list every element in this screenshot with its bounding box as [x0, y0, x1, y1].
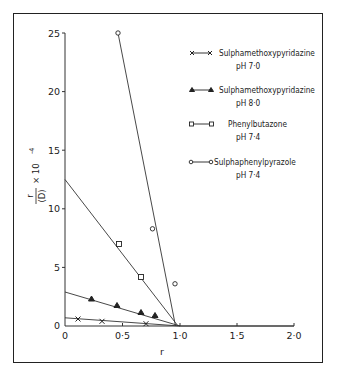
triangle-marker-icon — [89, 296, 95, 301]
legend-item-sulphamethoxypyridazine-ph7: Sulphamethoxypyridazine pH 7·0 — [190, 48, 315, 71]
y-tick-label: 20 — [48, 86, 60, 97]
triangle-marker-icon — [190, 88, 195, 92]
y-label-exponent: -4 — [28, 148, 36, 154]
legend-sublabel: pH 7·4 — [236, 132, 261, 142]
y-tick-label: 0 — [54, 320, 60, 331]
y-tick-label: 10 — [48, 203, 60, 214]
circle-marker-icon — [209, 160, 213, 164]
x-tick-label: 0·5 — [115, 330, 130, 341]
x-tick-label: 1·5 — [229, 330, 244, 341]
triangle-marker-icon — [152, 313, 158, 318]
legend-sublabel: pH 8·0 — [236, 98, 261, 108]
square-marker-icon — [190, 122, 194, 126]
legend-label: Sulphamethoxypyridazine — [219, 48, 315, 58]
markers-phenylbutazone — [117, 242, 144, 280]
y-label-denominator: (D) — [37, 189, 47, 202]
x-tick-label: 2·0 — [286, 330, 301, 341]
circle-marker-icon — [150, 227, 154, 231]
circle-marker-icon — [189, 160, 193, 164]
legend-label: Sulphaphenylpyrazole — [214, 157, 296, 167]
fit-line-sulphaphenylpyrazole — [118, 33, 176, 326]
legend-sublabel: pH 7·4 — [236, 170, 261, 180]
y-tick-label: 5 — [54, 262, 60, 273]
legend: Sulphamethoxypyridazine pH 7·0 Sulphamet… — [189, 48, 315, 180]
chart-svg: 25 20 15 10 5 0 0 0·5 1·0 1·5 2·0 r r (D… — [0, 0, 338, 381]
y-ticks: 25 20 15 10 5 0 — [48, 28, 65, 332]
square-marker-icon — [210, 122, 214, 126]
y-label-numerator: r — [25, 194, 35, 198]
triangle-marker-icon — [209, 88, 214, 92]
triangle-marker-icon — [138, 310, 144, 315]
legend-sublabel: pH 7·0 — [236, 61, 261, 71]
x-tick-label: 1·0 — [172, 330, 187, 341]
y-tick-label: 15 — [48, 145, 60, 156]
y-tick-label: 25 — [48, 28, 60, 39]
triangle-marker-icon — [114, 303, 120, 308]
square-marker-icon — [117, 242, 122, 247]
circle-marker-icon — [116, 31, 120, 35]
square-marker-icon — [139, 275, 144, 280]
legend-item-sulphamethoxypyridazine-ph8: Sulphamethoxypyridazine pH 8·0 — [190, 85, 316, 108]
legend-label: Phenylbutazone — [228, 119, 288, 129]
legend-label: Sulphamethoxypyridazine — [219, 85, 315, 95]
x-marker-icon — [100, 319, 105, 324]
legend-item-phenylbutazone: Phenylbutazone pH 7·4 — [190, 119, 288, 142]
x-axis-label: r — [160, 346, 164, 357]
legend-item-sulphaphenylpyrazole: Sulphaphenylpyrazole pH 7·4 — [189, 157, 296, 180]
y-axis-label: r (D) × 10 -4 — [25, 148, 47, 204]
markers-sulphamethoxypyridazine-ph8 — [89, 296, 159, 318]
y-label-multiplier: × 10 — [31, 163, 41, 184]
fit-line-sulphamethoxypyridazine-ph8 — [65, 292, 180, 326]
x-tick-label: 0 — [62, 330, 68, 341]
circle-marker-icon — [173, 282, 177, 286]
